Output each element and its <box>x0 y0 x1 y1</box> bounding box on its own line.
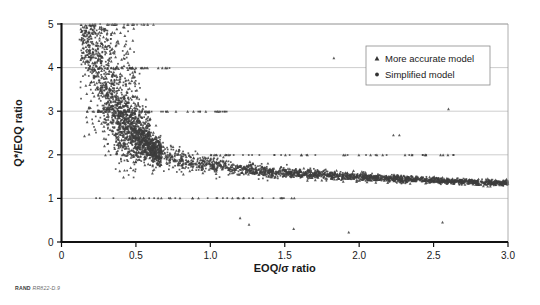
data-point <box>216 159 218 161</box>
data-point <box>115 99 117 101</box>
data-point <box>224 111 226 113</box>
data-point <box>146 130 148 132</box>
data-point <box>121 131 123 133</box>
data-point <box>133 154 135 156</box>
data-point <box>118 121 120 123</box>
data-point <box>250 167 252 169</box>
data-point <box>129 74 131 76</box>
data-point <box>89 45 91 47</box>
data-point <box>274 176 276 178</box>
data-point <box>123 154 125 156</box>
data-point <box>109 58 111 60</box>
data-point <box>202 168 204 170</box>
data-point <box>88 67 90 69</box>
data-point <box>105 75 107 77</box>
data-point <box>81 55 83 57</box>
data-point <box>111 76 113 78</box>
data-point <box>130 125 132 127</box>
data-point <box>309 167 311 169</box>
data-point <box>125 125 127 127</box>
data-point <box>257 165 259 167</box>
data-point <box>377 173 379 175</box>
data-point <box>471 182 473 184</box>
data-point <box>127 121 129 123</box>
data-point <box>100 100 102 102</box>
data-point <box>148 147 150 149</box>
data-point <box>332 173 334 175</box>
data-point <box>277 178 279 180</box>
data-point <box>444 181 446 183</box>
data-point <box>251 165 253 167</box>
data-point <box>157 164 159 166</box>
data-point <box>138 112 140 114</box>
data-point <box>125 127 127 129</box>
data-point <box>184 167 186 169</box>
data-point <box>248 170 250 172</box>
data-point <box>379 178 381 180</box>
data-point <box>211 167 213 169</box>
data-point <box>115 134 117 136</box>
data-point <box>222 197 224 199</box>
data-point <box>102 131 104 133</box>
data-point <box>85 67 87 69</box>
data-point <box>142 141 144 143</box>
data-point <box>415 179 417 181</box>
data-point <box>99 197 101 199</box>
data-point <box>118 138 120 140</box>
data-point <box>137 102 139 104</box>
data-point <box>115 94 117 96</box>
data-point <box>385 175 387 177</box>
data-point <box>339 175 341 177</box>
data-point <box>110 38 112 40</box>
data-point <box>117 133 119 135</box>
data-point <box>124 58 126 60</box>
data-point <box>94 70 96 72</box>
data-point <box>199 157 201 159</box>
data-point <box>307 176 309 178</box>
data-point <box>252 163 254 165</box>
data-point <box>406 179 408 181</box>
data-point <box>309 171 311 173</box>
data-point <box>115 113 117 115</box>
data-point <box>469 182 471 184</box>
data-point <box>143 132 145 134</box>
data-point <box>229 173 231 175</box>
data-point <box>218 165 220 167</box>
data-point <box>102 96 104 98</box>
data-point <box>226 197 228 199</box>
data-point <box>108 116 110 118</box>
data-point <box>116 129 118 131</box>
data-point <box>240 172 242 174</box>
data-point <box>120 159 122 161</box>
data-point <box>474 181 476 183</box>
data-point <box>93 75 95 77</box>
data-point <box>95 89 97 91</box>
data-point <box>230 161 232 163</box>
data-point <box>317 175 319 177</box>
data-point <box>128 142 130 144</box>
data-point <box>238 170 240 172</box>
data-point <box>401 178 403 180</box>
data-point <box>121 89 123 91</box>
data-point <box>87 62 89 64</box>
data-point <box>332 177 334 179</box>
data-point <box>316 171 318 173</box>
data-point <box>104 54 106 56</box>
data-point <box>195 163 197 165</box>
data-point <box>99 35 101 37</box>
data-point <box>145 137 147 139</box>
data-point <box>349 178 351 180</box>
data-point <box>103 70 105 72</box>
data-point <box>246 167 248 169</box>
data-point <box>210 168 212 170</box>
data-point <box>135 118 137 120</box>
data-point <box>81 64 83 66</box>
data-point <box>452 180 454 182</box>
data-point <box>195 150 197 152</box>
data-point <box>213 159 215 161</box>
data-point <box>457 177 459 179</box>
data-point <box>107 81 109 83</box>
data-point <box>115 97 117 99</box>
data-point <box>134 125 136 127</box>
data-point <box>111 115 113 117</box>
